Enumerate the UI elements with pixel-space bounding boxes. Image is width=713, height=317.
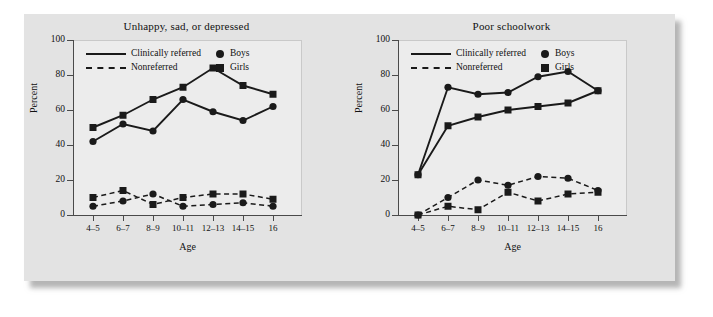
data-point-square	[240, 82, 247, 89]
data-point-circle	[149, 190, 156, 197]
y-tick-label-100-left: 100	[24, 34, 65, 44]
y-tick-label-40-right: 40	[349, 139, 390, 149]
series-layer-left	[73, 40, 302, 216]
x-tick-1-left	[123, 216, 124, 221]
figure-page: Unhappy, sad, or depressed Percent 100 8…	[0, 0, 713, 317]
data-point-square	[475, 114, 482, 121]
data-point-circle	[269, 103, 276, 110]
data-point-square	[505, 189, 512, 196]
chart-panel-left: Unhappy, sad, or depressed Percent 100 8…	[24, 14, 349, 281]
y-tick-label-20-left: 20	[24, 174, 65, 184]
data-point-square	[415, 171, 422, 178]
data-point-square	[150, 96, 157, 103]
data-point-circle	[269, 203, 276, 210]
x-tick-3-left	[183, 216, 184, 221]
data-point-square	[270, 196, 277, 203]
x-tick-2-left	[153, 216, 154, 221]
data-point-square	[595, 189, 602, 196]
chart-row: Unhappy, sad, or depressed Percent 100 8…	[24, 14, 675, 281]
data-point-square	[535, 198, 542, 205]
y-tick-label-60-left: 60	[24, 104, 65, 114]
x-tick-0-left	[93, 216, 94, 221]
data-point-square	[445, 122, 452, 129]
data-point-square	[565, 100, 572, 107]
x-tick-2-right	[478, 216, 479, 221]
series-layer-right	[398, 40, 627, 216]
data-point-square	[180, 194, 187, 201]
data-point-circle	[504, 89, 511, 96]
x-tick-5-left	[243, 216, 244, 221]
data-point-circle	[444, 194, 451, 201]
x-tick-label-6-left: 16	[252, 223, 294, 233]
data-point-circle	[534, 73, 541, 80]
data-point-square	[120, 112, 127, 119]
x-tick-label-6-right: 16	[577, 223, 619, 233]
x-tick-1-right	[448, 216, 449, 221]
data-point-square	[475, 206, 482, 213]
y-tick-label-60-right: 60	[349, 104, 390, 114]
data-point-circle	[534, 173, 541, 180]
figure-card: Unhappy, sad, or depressed Percent 100 8…	[24, 14, 675, 281]
data-point-circle	[564, 175, 571, 182]
chart-panel-right: Poor schoolwork Percent 100 80 60 40 20	[349, 14, 674, 281]
data-point-square	[150, 201, 157, 208]
data-point-circle	[179, 96, 186, 103]
data-point-square	[210, 191, 217, 198]
data-point-square	[595, 87, 602, 94]
data-point-circle	[239, 117, 246, 124]
x-tick-6-right	[598, 216, 599, 221]
data-point-square	[210, 65, 217, 72]
data-point-square	[90, 194, 97, 201]
data-point-circle	[209, 108, 216, 115]
data-point-square	[240, 191, 247, 198]
y-tick-label-80-right: 80	[349, 69, 390, 79]
x-axis-label-right: Age	[398, 241, 627, 252]
data-point-circle	[179, 203, 186, 210]
y-tick-label-40-left: 40	[24, 139, 65, 149]
data-point-circle	[564, 68, 571, 75]
y-tick-label-0-left: 0	[24, 209, 65, 219]
y-tick-label-80-left: 80	[24, 69, 65, 79]
y-tick-label-20-right: 20	[349, 174, 390, 184]
data-point-circle	[89, 138, 96, 145]
data-point-square	[415, 212, 422, 219]
data-point-circle	[239, 199, 246, 206]
data-point-circle	[89, 203, 96, 210]
data-point-square	[565, 191, 572, 198]
data-point-square	[90, 124, 97, 131]
data-point-square	[180, 84, 187, 91]
data-point-square	[505, 107, 512, 114]
data-point-circle	[474, 91, 481, 98]
data-point-circle	[149, 127, 156, 134]
data-point-circle	[474, 176, 481, 183]
y-tick-label-0-right: 0	[349, 209, 390, 219]
x-tick-5-right	[568, 216, 569, 221]
x-tick-4-right	[538, 216, 539, 221]
x-tick-6-left	[273, 216, 274, 221]
data-point-square	[120, 187, 127, 194]
data-point-circle	[209, 201, 216, 208]
x-tick-4-left	[213, 216, 214, 221]
data-point-square	[535, 103, 542, 110]
data-point-square	[270, 91, 277, 98]
x-axis-label-left: Age	[73, 241, 302, 252]
x-tick-3-right	[508, 216, 509, 221]
data-point-circle	[444, 84, 451, 91]
data-point-circle	[504, 182, 511, 189]
data-point-circle	[119, 197, 126, 204]
y-tick-label-100-right: 100	[349, 34, 390, 44]
data-point-circle	[119, 120, 126, 127]
data-point-square	[445, 203, 452, 210]
